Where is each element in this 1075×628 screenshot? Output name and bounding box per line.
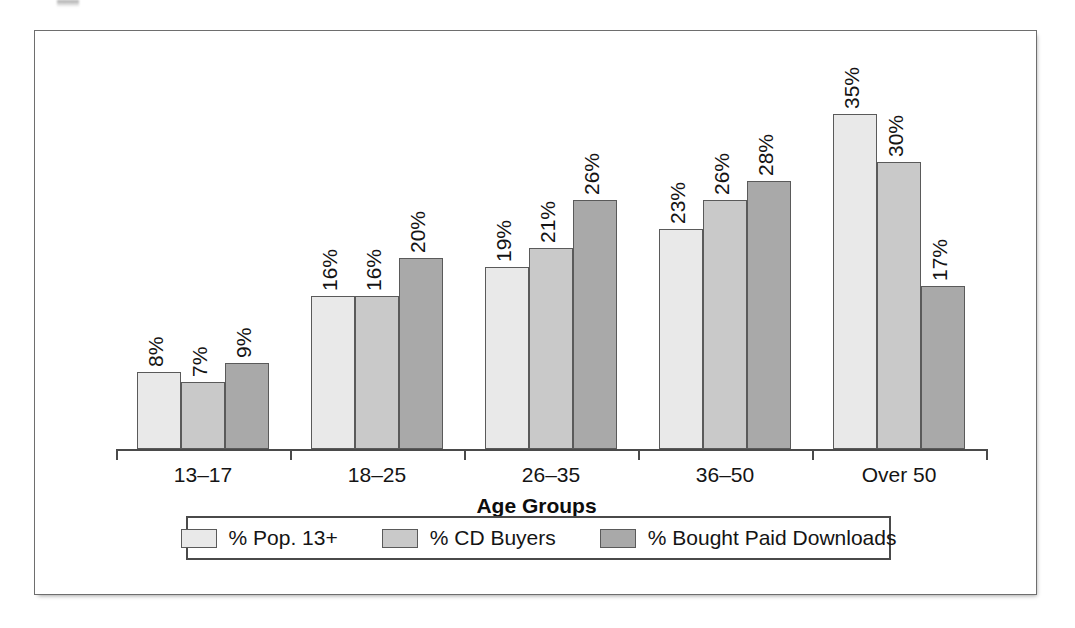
bar-slot: 35%: [833, 114, 877, 449]
bar[interactable]: 16%: [311, 296, 355, 449]
bar-slot: 26%: [703, 200, 747, 449]
x-axis-tick-label: Over 50: [812, 463, 986, 487]
bar-value-label: 26%: [710, 153, 734, 195]
bar[interactable]: 21%: [529, 248, 573, 449]
x-axis-tick: [116, 449, 118, 460]
bar-value-label: 26%: [580, 153, 604, 195]
bar-slot: 16%: [311, 296, 355, 449]
scan-artifact: [57, 0, 79, 7]
bar[interactable]: 23%: [659, 229, 703, 449]
bar-group-36-50: 23%26%28%: [638, 89, 812, 449]
legend-item[interactable]: % Pop. 13+: [181, 526, 338, 550]
bar-value-label: 23%: [666, 182, 690, 224]
bar-value-label: 17%: [928, 239, 952, 281]
bar-group-18-25: 16%16%20%: [290, 89, 464, 449]
legend-swatch: [382, 529, 418, 548]
bar-slot: 7%: [181, 382, 225, 449]
x-axis-tick: [464, 449, 466, 460]
bar-group-26-35: 19%21%26%: [464, 89, 638, 449]
x-axis-tick: [290, 449, 292, 460]
x-axis-tick: [638, 449, 640, 460]
bar-group-13-17: 8%7%9%: [116, 89, 290, 449]
bar-slot: 19%: [485, 267, 529, 449]
bar[interactable]: 28%: [747, 181, 791, 449]
bar[interactable]: 9%: [225, 363, 269, 449]
bar-slot: 23%: [659, 229, 703, 449]
bar[interactable]: 19%: [485, 267, 529, 449]
bar[interactable]: 7%: [181, 382, 225, 449]
x-axis-tick-label: 36–50: [638, 463, 812, 487]
bar-value-label: 8%: [144, 337, 168, 367]
bar-slot: 21%: [529, 248, 573, 449]
bar[interactable]: 30%: [877, 162, 921, 449]
legend-item[interactable]: % CD Buyers: [382, 526, 556, 550]
plot-area: 8%7%9%16%16%20%19%21%26%23%26%28%35%30%1…: [35, 31, 1038, 596]
bar[interactable]: 26%: [703, 200, 747, 449]
bar-value-label: 21%: [536, 201, 560, 243]
bar-slot: 17%: [921, 286, 965, 449]
bar-slot: 30%: [877, 162, 921, 449]
chart-legend: % Pop. 13+% CD Buyers% Bought Paid Downl…: [186, 516, 891, 560]
bar-group-over-50: 35%30%17%: [812, 89, 986, 449]
bar[interactable]: 17%: [921, 286, 965, 449]
x-axis-tick-label: 26–35: [464, 463, 638, 487]
bar-slot: 16%: [355, 296, 399, 449]
legend-label: % Bought Paid Downloads: [648, 526, 897, 550]
bar[interactable]: 8%: [137, 372, 181, 449]
bar-value-label: 20%: [406, 211, 430, 253]
bar-slot: 9%: [225, 363, 269, 449]
legend-swatch: [181, 529, 217, 548]
bar-slot: 26%: [573, 200, 617, 449]
bar-value-label: 7%: [188, 347, 212, 377]
x-axis-title: Age Groups: [35, 494, 1038, 518]
x-axis-tick: [812, 449, 814, 460]
bar-value-label: 16%: [318, 249, 342, 291]
bar-slot: 8%: [137, 372, 181, 449]
legend-item[interactable]: % Bought Paid Downloads: [600, 526, 897, 550]
legend-label: % Pop. 13+: [229, 526, 338, 550]
x-axis-line: [116, 449, 986, 451]
bar-value-label: 19%: [492, 220, 516, 262]
bar-value-label: 28%: [754, 134, 778, 176]
bar-value-label: 35%: [840, 67, 864, 109]
legend-label: % CD Buyers: [430, 526, 556, 550]
bar-slot: 20%: [399, 258, 443, 449]
x-axis-tick-label: 18–25: [290, 463, 464, 487]
bar[interactable]: 20%: [399, 258, 443, 449]
figure-frame: 8%7%9%16%16%20%19%21%26%23%26%28%35%30%1…: [34, 30, 1037, 595]
bar-value-label: 9%: [232, 328, 256, 358]
bar-value-label: 16%: [362, 249, 386, 291]
bar-slot: 28%: [747, 181, 791, 449]
bar-value-label: 30%: [884, 115, 908, 157]
bar[interactable]: 35%: [833, 114, 877, 449]
bar[interactable]: 16%: [355, 296, 399, 449]
x-axis-tick: [986, 449, 988, 460]
bar[interactable]: 26%: [573, 200, 617, 449]
x-axis-tick-label: 13–17: [116, 463, 290, 487]
legend-swatch: [600, 529, 636, 548]
